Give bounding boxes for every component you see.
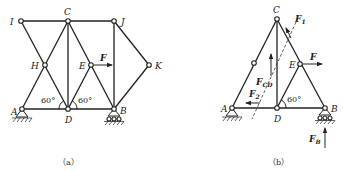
joint-a (230, 106, 235, 111)
label-b: B (119, 106, 127, 116)
force-label-fb: FB (308, 134, 320, 145)
label-d: D (273, 114, 281, 124)
angle-label-b: 60° (287, 95, 301, 104)
joint-j (112, 19, 117, 24)
label-a: A (10, 107, 18, 117)
label-k: K (154, 61, 163, 71)
joint-b (112, 107, 117, 112)
force-label-f2: F2 (248, 89, 260, 100)
angle-label-right: 60° (78, 96, 92, 105)
truss-diagram: 60° 60° F (0, 0, 343, 171)
caption-b: （b） (268, 158, 289, 167)
label-e: E (78, 61, 86, 71)
joint-c (275, 17, 280, 22)
label-b: B (330, 104, 338, 114)
angle-arc-right (72, 101, 77, 109)
label-e: E (288, 60, 296, 70)
joint-e (298, 62, 303, 67)
joint-d (275, 106, 280, 111)
joint-i (19, 19, 24, 24)
label-d: D (64, 115, 72, 125)
joint-e (89, 63, 94, 68)
label-i: I (9, 17, 14, 27)
label-c: C (273, 5, 280, 15)
joint-h (43, 63, 48, 68)
joint-d (66, 107, 71, 112)
figure-a: 60° 60° F (9, 7, 163, 167)
joint-c (66, 19, 71, 24)
caption-a: （a） (58, 158, 79, 167)
label-a: A (220, 104, 228, 114)
angle-arc-left (59, 101, 64, 109)
angle-label-left: 60° (41, 96, 55, 105)
force-label-f1: F1 (294, 14, 306, 25)
joint-a (20, 107, 25, 112)
angle-arc-b (281, 100, 286, 108)
force-label-f: F (309, 52, 317, 62)
joint-h (252, 61, 257, 66)
label-c: C (64, 7, 71, 17)
force-label-f: F (99, 53, 107, 63)
label-j: J (119, 17, 126, 27)
section-cut-line (252, 22, 296, 119)
joint-k (147, 63, 152, 68)
figure-b: 60° F1 FCD F2 F FB (220, 5, 338, 167)
label-h: H (30, 61, 39, 71)
joint-b (323, 106, 328, 111)
